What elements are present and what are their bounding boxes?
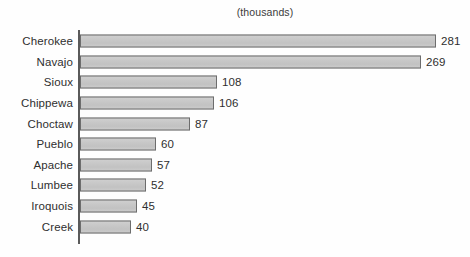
bar-value-label: 269 xyxy=(426,56,446,68)
category-label: Cherokee xyxy=(0,35,73,47)
bar xyxy=(80,200,137,213)
bar-value-label: 60 xyxy=(161,138,174,150)
bar-row: Iroquois45 xyxy=(0,196,470,217)
category-label: Sioux xyxy=(0,76,73,88)
bar xyxy=(80,97,214,110)
bar xyxy=(80,76,217,89)
bar-value-label: 87 xyxy=(195,118,208,130)
bar-chart: (thousands) Cherokee281Navajo269Sioux108… xyxy=(0,0,470,257)
category-label: Navajo xyxy=(0,56,73,68)
bar-value-label: 52 xyxy=(151,179,164,191)
category-label: Pueblo xyxy=(0,138,73,150)
bar xyxy=(80,35,436,48)
bar-row: Sioux108 xyxy=(0,72,470,93)
chart-title: (thousands) xyxy=(0,6,470,18)
bar-row: Creek40 xyxy=(0,216,470,237)
bar-value-label: 281 xyxy=(441,35,461,47)
category-label: Chippewa xyxy=(0,97,73,109)
bar-value-label: 57 xyxy=(157,159,170,171)
category-label: Lumbee xyxy=(0,179,73,191)
bar xyxy=(80,179,146,192)
bar xyxy=(80,55,421,68)
bar xyxy=(80,220,131,233)
bar-row: Apache57 xyxy=(0,155,470,176)
bar-value-label: 106 xyxy=(219,97,239,109)
bar-row: Lumbee52 xyxy=(0,175,470,196)
category-label: Choctaw xyxy=(0,118,73,130)
plot-area: Cherokee281Navajo269Sioux108Chippewa106C… xyxy=(0,29,470,247)
category-label: Creek xyxy=(0,221,73,233)
bar-value-label: 108 xyxy=(222,76,242,88)
bar-row: Chippewa106 xyxy=(0,93,470,114)
bar xyxy=(80,138,156,151)
bar xyxy=(80,158,152,171)
bar-row: Cherokee281 xyxy=(0,31,470,52)
bar-row: Pueblo60 xyxy=(0,134,470,155)
category-label: Apache xyxy=(0,159,73,171)
bar xyxy=(80,117,190,130)
bar-value-label: 40 xyxy=(136,221,149,233)
bar-value-label: 45 xyxy=(142,200,155,212)
bar-row: Navajo269 xyxy=(0,52,470,73)
chart-title-text: (thousands) xyxy=(237,6,294,18)
bar-row: Choctaw87 xyxy=(0,113,470,134)
category-label: Iroquois xyxy=(0,200,73,212)
